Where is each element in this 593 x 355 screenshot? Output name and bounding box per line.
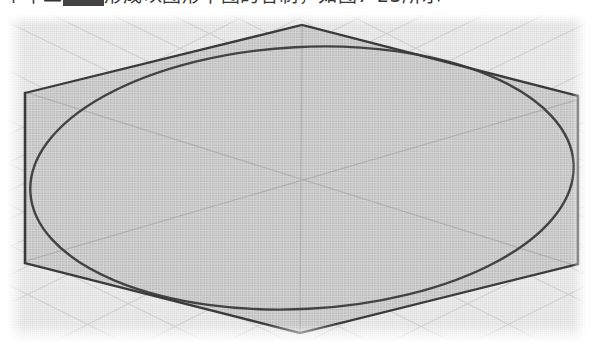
caption-text-before: 个中二 xyxy=(4,0,63,6)
caption-highlight-block: 段面 xyxy=(63,0,104,6)
clipped-caption-strip: 个中二段面形成以图形中图的各制，如图7-23所示 xyxy=(0,0,593,15)
cad-viewport-svg xyxy=(8,15,586,342)
figure-page: 个中二段面形成以图形中图的各制，如图7-23所示 xyxy=(0,0,593,355)
caption-text-after: 形成以图形中图的各制，如图7-23所示 xyxy=(104,0,442,6)
caption-text: 个中二段面形成以图形中图的各制，如图7-23所示 xyxy=(4,0,441,6)
cad-figure-scan xyxy=(8,15,586,342)
